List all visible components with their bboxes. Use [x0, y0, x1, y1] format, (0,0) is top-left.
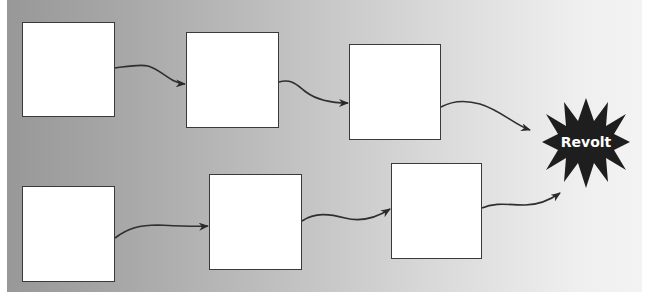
arrow-3-to-revolt — [441, 102, 530, 130]
arrow-4-to-5 — [115, 225, 208, 238]
arrow-6-to-revolt — [482, 193, 560, 208]
arrow-1-to-2 — [115, 65, 185, 84]
arrow-2-to-3 — [279, 81, 348, 103]
revolt-label: Revolt — [546, 132, 626, 152]
arrow-5-to-6 — [302, 209, 390, 221]
